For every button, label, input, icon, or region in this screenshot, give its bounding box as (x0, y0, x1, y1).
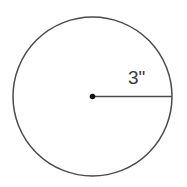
radius-measure-label: 3" (128, 67, 145, 88)
center-point-dot (90, 94, 96, 100)
circle-diagram: 3" (0, 0, 187, 187)
figure-container: 3" (0, 0, 187, 187)
diagram-background (0, 0, 187, 187)
